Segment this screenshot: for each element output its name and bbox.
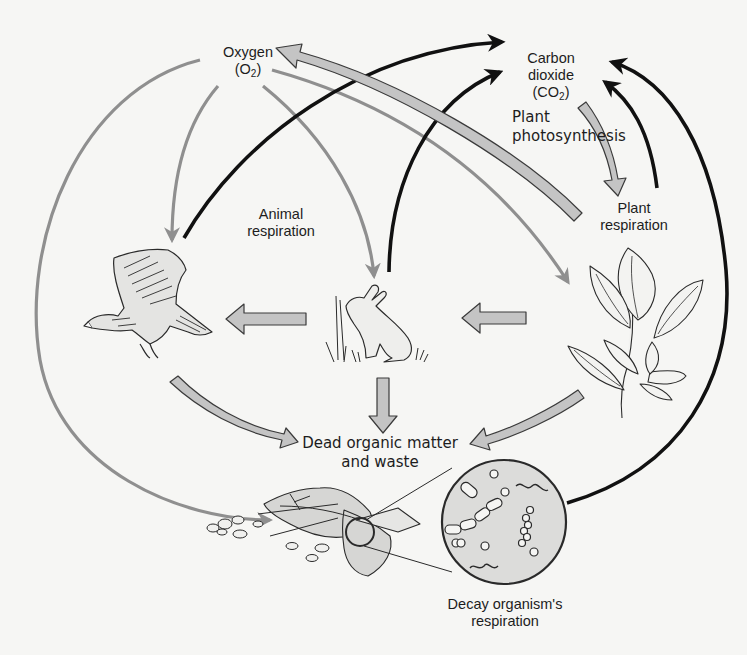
oxygen-label: Oxygen (O2) <box>209 44 287 82</box>
leaf-litter-illustration <box>207 468 452 576</box>
animal-respiration-label: Animal respiration <box>236 206 326 240</box>
oxygen-formula: (O2) <box>209 61 287 82</box>
rabbit-illustration <box>326 285 428 362</box>
dead-organic-matter-line2: and waste <box>290 453 470 472</box>
animal-respiration-line1: Animal <box>236 206 326 223</box>
co2-formula: (CO2) <box>511 84 591 105</box>
plant-photosynthesis-label: Plant photosynthesis <box>512 108 626 146</box>
hawk-to-dead-matter-arrow <box>170 376 298 448</box>
oxygen-label-line1: Oxygen <box>209 44 287 61</box>
decay-respiration-label: Decay organism's respiration <box>420 596 590 630</box>
decay-respiration-line2: respiration <box>420 613 590 630</box>
plant-illustration <box>568 248 703 418</box>
animal-respiration-line2: respiration <box>236 223 326 240</box>
co2-label-line2: dioxide <box>511 67 591 84</box>
plant-photosynthesis-line1: Plant <box>512 108 626 127</box>
plant-respiration-line2: respiration <box>594 217 674 234</box>
hawk-illustration <box>84 249 212 358</box>
plant-respiration-label: Plant respiration <box>594 200 674 234</box>
plant-to-dead-matter-arrow <box>470 390 584 450</box>
plant-to-rabbit-arrow <box>462 303 526 333</box>
rabbit-to-dead-matter-arrow <box>369 378 397 433</box>
dead-organic-matter-line1: Dead organic matter <box>290 434 470 453</box>
co2-label-line1: Carbon <box>511 50 591 67</box>
carbon-oxygen-cycle-diagram: Oxygen (O2) Carbon dioxide (CO2) Plant p… <box>0 0 747 655</box>
oxygen-to-rabbit-arrow <box>263 86 374 276</box>
plant-respiration-line1: Plant <box>594 200 674 217</box>
microorganisms-illustration <box>442 460 566 584</box>
decay-respiration-line1: Decay organism's <box>420 596 590 613</box>
plant-photosynthesis-line2: photosynthesis <box>512 127 626 146</box>
diagram-canvas <box>0 0 747 655</box>
dead-organic-matter-label: Dead organic matter and waste <box>290 434 470 472</box>
rabbit-to-hawk-arrow <box>226 304 306 334</box>
carbon-dioxide-label: Carbon dioxide (CO2) <box>511 50 591 105</box>
